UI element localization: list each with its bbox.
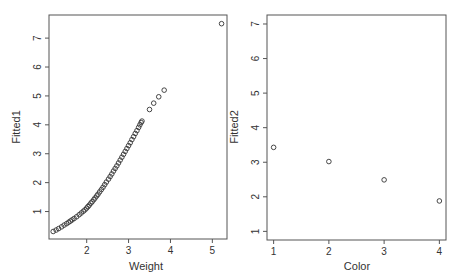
data-point	[327, 159, 332, 164]
y-tick-label: 4	[250, 124, 261, 130]
data-point	[437, 199, 442, 204]
x-tick-label: 3	[381, 246, 387, 257]
x-tick-label: 4	[168, 245, 174, 256]
data-points	[51, 21, 224, 233]
y-tick-label: 2	[32, 179, 43, 185]
y-axis-label: Fitted2	[228, 110, 240, 144]
y-tick-label: 1	[32, 208, 43, 214]
x-tick-label: 1	[271, 246, 277, 257]
data-point	[147, 107, 152, 112]
y-tick-label: 5	[250, 90, 261, 96]
y-axis-ticks: 1234567	[250, 21, 267, 234]
figure: 2345 1234567 Weight Fitted1 1234 1234567…	[0, 0, 459, 280]
y-axis-ticks: 1234567	[32, 35, 49, 214]
y-tick-label: 7	[250, 21, 261, 27]
panel-color-vs-fitted2: 1234 1234567 Color Fitted2	[228, 15, 446, 272]
y-tick-label: 4	[32, 122, 43, 128]
data-point	[382, 178, 387, 183]
y-tick-label: 2	[250, 194, 261, 200]
plot-frame	[49, 15, 227, 239]
y-tick-label: 6	[32, 64, 43, 70]
x-tick-label: 2	[84, 245, 90, 256]
y-tick-label: 1	[250, 228, 261, 234]
x-tick-label: 2	[326, 246, 332, 257]
x-axis-label: Weight	[129, 260, 163, 272]
y-tick-label: 3	[32, 151, 43, 157]
data-point	[271, 145, 276, 150]
panel-weight-vs-fitted1: 2345 1234567 Weight Fitted1	[10, 15, 227, 272]
y-axis-label: Fitted1	[10, 110, 22, 144]
data-point	[151, 101, 156, 106]
x-axis-ticks: 2345	[84, 239, 216, 256]
y-tick-label: 6	[250, 55, 261, 61]
y-tick-label: 5	[32, 93, 43, 99]
x-tick-label: 5	[210, 245, 216, 256]
y-tick-label: 7	[32, 35, 43, 41]
x-axis-label: Color	[344, 260, 371, 272]
data-point	[140, 119, 145, 124]
x-tick-label: 4	[437, 246, 443, 257]
x-tick-label: 3	[126, 245, 132, 256]
x-axis-ticks: 1234	[271, 240, 443, 257]
data-points	[271, 145, 441, 203]
data-point	[162, 88, 167, 93]
plot-frame	[267, 15, 446, 240]
data-point	[156, 94, 161, 99]
y-tick-label: 3	[250, 159, 261, 165]
data-point	[219, 21, 224, 26]
